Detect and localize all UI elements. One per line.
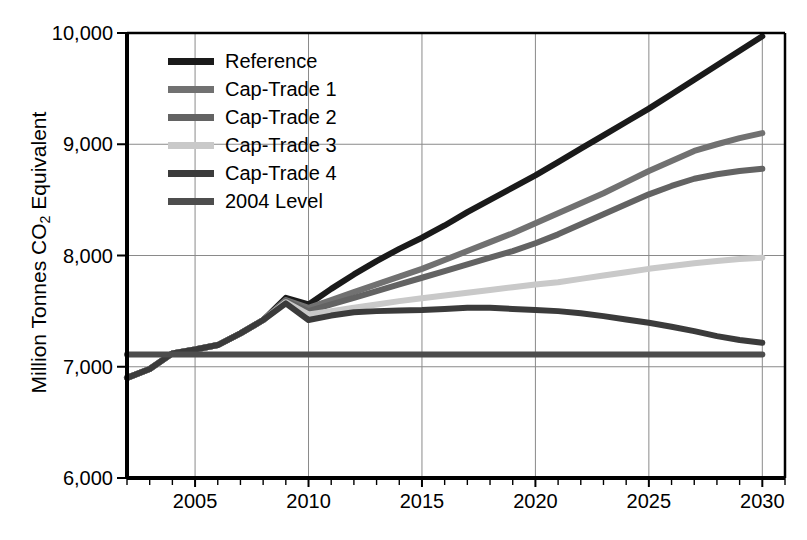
legend-item[interactable]: Cap-Trade 1 — [168, 75, 337, 103]
chart-legend: ReferenceCap-Trade 1Cap-Trade 2Cap-Trade… — [168, 47, 337, 215]
legend-item[interactable]: Cap-Trade 3 — [168, 131, 337, 159]
legend-item-label: Reference — [225, 51, 317, 71]
legend-item-label: Cap-Trade 2 — [225, 107, 337, 127]
legend-item-label: Cap-Trade 1 — [225, 79, 337, 99]
legend-swatch-icon — [168, 86, 214, 93]
plot-area — [0, 0, 807, 540]
legend-swatch-icon — [168, 170, 214, 177]
legend-item[interactable]: 2004 Level — [168, 187, 337, 215]
legend-swatch-icon — [168, 58, 214, 65]
emissions-projection-chart: Million Tonnes CO2 Equivalent 6,0007,000… — [0, 0, 807, 540]
series-line-cap-trade-3 — [127, 258, 762, 378]
legend-swatch-icon — [168, 142, 214, 149]
legend-swatch-icon — [168, 114, 214, 121]
legend-item-label: Cap-Trade 3 — [225, 135, 337, 155]
legend-item[interactable]: Cap-Trade 2 — [168, 103, 337, 131]
legend-item[interactable]: Cap-Trade 4 — [168, 159, 337, 187]
legend-item[interactable]: Reference — [168, 47, 337, 75]
legend-item-label: Cap-Trade 4 — [225, 163, 337, 183]
legend-swatch-icon — [168, 198, 214, 205]
legend-item-label: 2004 Level — [225, 191, 323, 211]
